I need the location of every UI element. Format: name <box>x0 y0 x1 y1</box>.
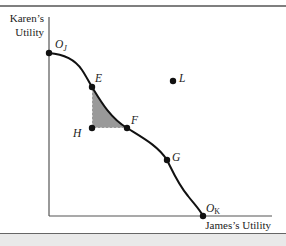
label-h: H <box>72 127 82 139</box>
label-f: F <box>130 114 139 126</box>
label-ok: OK <box>206 202 220 216</box>
label-e: E <box>94 72 102 84</box>
y-axis-label-line2: Utility <box>15 26 44 38</box>
point-h <box>89 125 95 131</box>
footer-band <box>0 234 286 246</box>
y-axis-label-line1: Karen’s <box>10 12 44 24</box>
point-f <box>124 125 130 131</box>
label-g: G <box>172 151 181 163</box>
label-l: L <box>178 72 185 84</box>
x-axis-label: James’s Utility <box>205 219 271 231</box>
point-g <box>164 157 170 163</box>
point-oj <box>46 50 52 56</box>
utility-frontier-diagram: Karen’s Utility James’s Utility OJ E F G… <box>0 0 286 246</box>
point-l <box>170 78 176 84</box>
shaded-region <box>92 87 127 128</box>
label-oj-sub: J <box>63 44 67 53</box>
label-ok-sub: K <box>214 207 220 216</box>
label-oj: OJ <box>55 38 67 53</box>
point-e <box>89 84 95 90</box>
